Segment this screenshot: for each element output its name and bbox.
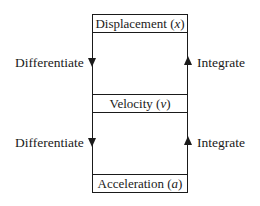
velocity-box: Velocity (v) — [92, 94, 188, 113]
integrate-label-upper: Integrate — [197, 56, 245, 70]
differentiate-label-upper: Differentiate — [15, 56, 84, 70]
arrow-down-icon — [88, 58, 96, 67]
displacement-symbol: x — [174, 17, 180, 30]
displacement-box: Displacement (x) — [92, 14, 188, 33]
arrow-down-icon — [88, 138, 96, 147]
velocity-label: Velocity — [109, 97, 152, 110]
integrate-label-lower: Integrate — [197, 136, 245, 150]
differentiate-label-lower: Differentiate — [15, 136, 84, 150]
acceleration-label: Acceleration — [98, 177, 164, 190]
arrow-up-icon — [184, 136, 192, 145]
arrow-up-icon — [184, 56, 192, 65]
displacement-label: Displacement — [95, 17, 166, 30]
acceleration-symbol: a — [172, 177, 179, 190]
acceleration-box: Acceleration (a) — [92, 174, 188, 193]
velocity-symbol: v — [160, 97, 166, 110]
